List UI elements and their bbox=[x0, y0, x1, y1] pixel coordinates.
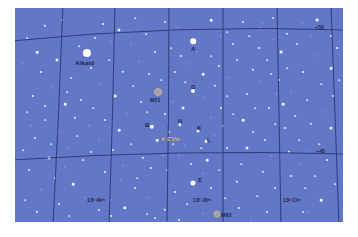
star-point bbox=[132, 85, 134, 87]
star-point bbox=[138, 61, 139, 62]
star-point bbox=[302, 71, 304, 73]
star-point bbox=[196, 51, 197, 52]
star-point bbox=[308, 211, 309, 212]
star-point bbox=[140, 101, 142, 103]
star-point bbox=[272, 17, 274, 19]
star-point bbox=[32, 95, 34, 97]
star-point bbox=[98, 139, 99, 140]
star-point bbox=[48, 157, 51, 160]
star-point bbox=[248, 35, 250, 37]
star-point bbox=[150, 167, 152, 169]
star-point bbox=[250, 219, 251, 220]
galaxy-symbol-m51 bbox=[154, 88, 162, 96]
ra-tick-13h20m: 13ʰ 20ᵐ bbox=[193, 198, 211, 203]
star-point bbox=[310, 123, 312, 125]
star-point bbox=[174, 191, 176, 193]
star-point bbox=[26, 111, 28, 113]
star-point bbox=[184, 145, 185, 146]
star-point bbox=[318, 143, 320, 145]
star-point bbox=[54, 177, 56, 179]
star-point bbox=[148, 73, 150, 75]
star-point bbox=[214, 85, 216, 87]
star-point bbox=[330, 35, 332, 37]
variable-star-label-v-cvn: V CVn bbox=[161, 136, 180, 142]
star-point bbox=[108, 59, 110, 61]
star-point bbox=[104, 119, 106, 121]
star-point bbox=[44, 25, 46, 27]
star-point bbox=[118, 129, 121, 132]
star-point bbox=[90, 67, 92, 69]
star-point bbox=[245, 146, 248, 149]
star-point bbox=[190, 180, 195, 185]
star-point bbox=[102, 23, 104, 25]
star-point bbox=[272, 39, 273, 40]
star-point bbox=[220, 107, 222, 109]
star-label-g: G bbox=[191, 84, 196, 90]
star-point bbox=[278, 79, 280, 81]
star-point bbox=[286, 33, 288, 35]
star-point bbox=[330, 127, 333, 130]
star-point bbox=[117, 28, 120, 31]
star-point bbox=[210, 187, 212, 189]
star-point bbox=[204, 97, 205, 98]
star-point bbox=[226, 147, 228, 149]
star-point bbox=[166, 169, 168, 171]
star-point bbox=[224, 197, 226, 199]
star-point bbox=[68, 215, 70, 217]
star-point bbox=[110, 215, 112, 217]
sky-panel: Alkaid A B G H K L E V CVn M51 M63 +50 +… bbox=[15, 8, 343, 222]
star-point bbox=[34, 137, 36, 139]
star-point bbox=[100, 83, 101, 84]
star-point bbox=[232, 43, 234, 45]
star-point bbox=[164, 21, 166, 23]
ra-tick-13h40m: 13ʰ 40ᵐ bbox=[87, 198, 105, 203]
star-point bbox=[242, 119, 245, 122]
star-point bbox=[130, 43, 131, 44]
star-point bbox=[104, 171, 106, 173]
star-point bbox=[222, 125, 224, 127]
star-point bbox=[123, 206, 126, 209]
star-point bbox=[214, 135, 215, 136]
star-point bbox=[170, 47, 172, 49]
star-point bbox=[120, 179, 121, 180]
star-point bbox=[304, 187, 306, 189]
star-point bbox=[44, 119, 46, 121]
star-point bbox=[56, 59, 59, 62]
star-point bbox=[246, 93, 248, 95]
star-point bbox=[316, 19, 319, 22]
star-point bbox=[142, 157, 144, 159]
star-point bbox=[64, 103, 67, 106]
star-point bbox=[274, 123, 276, 125]
star-point bbox=[270, 155, 271, 156]
star-point bbox=[314, 55, 315, 56]
star-point bbox=[92, 107, 94, 109]
star-point bbox=[206, 159, 209, 162]
star-point bbox=[40, 71, 42, 73]
star-point bbox=[50, 143, 52, 145]
star-point bbox=[76, 135, 78, 137]
star-label-a: A bbox=[191, 46, 195, 52]
star-point bbox=[134, 17, 136, 19]
star-point bbox=[186, 203, 188, 205]
star-point bbox=[314, 175, 316, 177]
ra-tick-13h00m: 13ʰ 00ᵐ bbox=[283, 198, 301, 203]
star-point bbox=[78, 45, 80, 47]
star-point bbox=[178, 155, 179, 156]
star-point bbox=[266, 211, 268, 213]
star-point bbox=[210, 117, 211, 118]
star-point bbox=[262, 23, 263, 24]
star-point bbox=[136, 177, 138, 179]
star-point bbox=[150, 125, 154, 129]
star-point bbox=[26, 37, 28, 39]
star-point bbox=[190, 163, 192, 165]
star-point bbox=[264, 139, 266, 141]
star-point bbox=[58, 131, 59, 132]
star-point bbox=[174, 71, 176, 73]
star-point bbox=[296, 43, 298, 45]
star-point bbox=[180, 55, 182, 57]
star-field bbox=[15, 8, 343, 222]
star-point bbox=[182, 107, 185, 110]
star-point bbox=[28, 169, 30, 171]
star-point bbox=[226, 31, 228, 33]
star-point bbox=[130, 143, 132, 145]
